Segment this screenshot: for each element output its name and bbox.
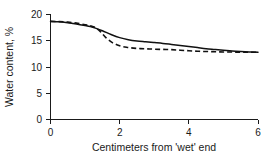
y-tick-label: 5 [36, 88, 42, 99]
x-axis-title: Centimeters from 'wet' end [92, 141, 216, 153]
y-tick-label: 20 [31, 9, 43, 20]
x-tick-label: 4 [186, 127, 192, 138]
axis-spines [51, 14, 259, 120]
x-tick-labels: 0 2 4 6 [48, 127, 262, 138]
chart-figure: 20 15 10 5 0 0 2 4 6 Water content, % Ce… [0, 0, 275, 155]
x-tick-label: 2 [117, 127, 123, 138]
x-tick-marks [51, 120, 259, 125]
y-tick-labels: 20 15 10 5 0 [31, 9, 43, 125]
line-chart: 20 15 10 5 0 0 2 4 6 Water content, % Ce… [0, 0, 275, 155]
y-tick-label: 10 [31, 62, 43, 73]
y-tick-label: 15 [31, 35, 43, 46]
series-dashed-line [51, 21, 259, 52]
y-tick-label: 0 [36, 114, 42, 125]
y-axis-title: Water content, % [3, 27, 15, 107]
series-solid-line [51, 21, 259, 52]
x-tick-label: 0 [48, 127, 54, 138]
y-tick-marks [46, 15, 51, 120]
x-tick-label: 6 [255, 127, 261, 138]
